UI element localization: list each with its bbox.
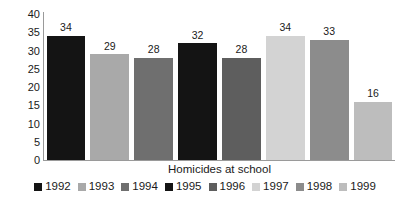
- bar-chart: 4035302520151050 3429283228343316 Homici…: [0, 0, 410, 200]
- legend-label: 1992: [45, 181, 71, 193]
- bar-value-label: 29: [90, 41, 129, 52]
- bar-value-label: 33: [310, 26, 349, 37]
- legend-item-1995[interactable]: 1995: [165, 181, 202, 193]
- bar: [266, 36, 305, 160]
- legend-swatch-icon: [34, 183, 42, 191]
- bar-value-label: 32: [178, 30, 217, 41]
- x-axis-title: Homicides at school: [44, 163, 395, 175]
- legend-swatch-icon: [209, 183, 217, 191]
- y-axis-tick-label: 15: [4, 100, 40, 111]
- legend-label: 1994: [132, 181, 158, 193]
- legend-swatch-icon: [296, 183, 304, 191]
- legend-item-1996[interactable]: 1996: [209, 181, 246, 193]
- legend-swatch-icon: [121, 183, 129, 191]
- legend-item-1998[interactable]: 1998: [296, 181, 333, 193]
- legend-label: 1997: [263, 181, 289, 193]
- y-axis-tick-label: 20: [4, 82, 40, 93]
- bar: [47, 36, 86, 160]
- legend-swatch-icon: [252, 183, 260, 191]
- legend-swatch-icon: [78, 183, 86, 191]
- legend-item-1993[interactable]: 1993: [78, 181, 115, 193]
- bars-container: 3429283228343316: [44, 14, 395, 160]
- bar-value-label: 28: [222, 44, 261, 55]
- legend-item-1999[interactable]: 1999: [339, 181, 376, 193]
- legend-item-1997[interactable]: 1997: [252, 181, 289, 193]
- y-axis-tick-label: 0: [4, 155, 40, 166]
- legend-swatch-icon: [339, 183, 347, 191]
- bar-value-label: 34: [47, 22, 86, 33]
- legend-label: 1996: [220, 181, 246, 193]
- x-axis-line: [43, 160, 395, 161]
- legend-label: 1995: [176, 181, 202, 193]
- bar: [134, 58, 173, 160]
- legend-label: 1998: [307, 181, 333, 193]
- chart-legend: 19921993199419951996199719981999: [0, 181, 410, 193]
- legend-label: 1999: [350, 181, 376, 193]
- bar: [90, 54, 129, 160]
- y-axis-tick-label: 40: [4, 9, 40, 20]
- bar-value-label: 28: [134, 44, 173, 55]
- legend-swatch-icon: [165, 183, 173, 191]
- y-axis-tick-label: 5: [4, 136, 40, 147]
- legend-label: 1993: [89, 181, 115, 193]
- bar: [222, 58, 261, 160]
- legend-item-1994[interactable]: 1994: [121, 181, 158, 193]
- bar-value-label: 34: [266, 22, 305, 33]
- y-axis-tick-label: 25: [4, 63, 40, 74]
- bar: [354, 102, 393, 160]
- y-axis-tick-label: 35: [4, 27, 40, 38]
- y-axis-tick-label: 30: [4, 45, 40, 56]
- y-axis-tick-label: 10: [4, 118, 40, 129]
- bar-value-label: 16: [354, 88, 393, 99]
- plot-area: 3429283228343316: [44, 14, 395, 160]
- y-axis-tick-labels: 4035302520151050: [0, 0, 40, 200]
- legend-item-1992[interactable]: 1992: [34, 181, 71, 193]
- bar: [178, 43, 217, 160]
- bar: [310, 40, 349, 160]
